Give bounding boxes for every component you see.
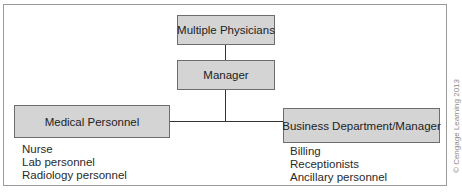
node-multiple-physicians: Multiple Physicians [177,15,275,45]
list-item: Ancillary personnel [290,171,387,184]
copyright-credit: © Cengage Learning 2013 [452,79,461,173]
medical-staff-list: Nurse Lab personnel Radiology personnel [22,143,127,182]
list-item: Nurse [22,143,127,156]
connector-horizontal-branch [170,121,283,122]
node-business-department: Business Department/Manager [283,108,440,143]
connector-manager-branch [225,90,226,121]
list-item: Receptionists [290,158,387,171]
connector-physicians-manager [225,45,226,60]
list-item: Lab personnel [22,156,127,169]
node-label: Multiple Physicians [177,24,275,36]
node-label: Manager [203,69,248,81]
node-medical-personnel: Medical Personnel [14,105,170,138]
list-item: Billing [290,145,387,158]
business-staff-list: Billing Receptionists Ancillary personne… [290,145,387,184]
node-label: Business Department/Manager [282,120,441,132]
node-manager: Manager [177,60,275,90]
list-item: Radiology personnel [22,169,127,182]
node-label: Medical Personnel [45,116,140,128]
